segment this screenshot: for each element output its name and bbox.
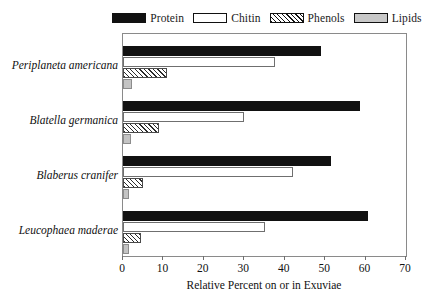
legend-label-phenols: Phenols [308, 12, 345, 24]
category-label: Blatella germanica [0, 114, 118, 126]
legend-swatch-phenols [270, 13, 304, 23]
x-tick [405, 256, 406, 260]
bar-lipids [123, 79, 132, 89]
bar-phenols [123, 178, 143, 188]
x-tick [122, 256, 123, 260]
x-tick-label: 50 [318, 262, 330, 274]
bar-protein [123, 156, 331, 166]
x-tick [203, 256, 204, 260]
x-tick-label: 40 [278, 262, 290, 274]
x-tick [284, 256, 285, 260]
bar-chitin [123, 167, 293, 177]
bar-group [123, 98, 406, 142]
x-tick-label: 0 [119, 262, 125, 274]
bar-lipids [123, 189, 129, 199]
category-label: Leucophaea maderae [0, 224, 118, 236]
bar-phenols [123, 68, 167, 78]
chart-figure: Protein Chitin Phenols Lipids Periplanet… [0, 0, 428, 305]
bar-protein [123, 211, 368, 221]
chart-legend: Protein Chitin Phenols Lipids [122, 10, 412, 26]
x-tick-label: 10 [157, 262, 169, 274]
bar-protein [123, 101, 360, 111]
plot-area [122, 33, 407, 257]
legend-label-chitin: Chitin [231, 12, 260, 24]
category-label: Blaberus cranifer [0, 169, 118, 181]
bars-container [123, 34, 406, 256]
bar-chitin [123, 57, 275, 67]
legend-label-protein: Protein [150, 12, 184, 24]
legend-swatch-lipids [354, 13, 388, 23]
bar-lipids [123, 134, 131, 144]
x-axis: 010203040506070 [122, 256, 406, 278]
bar-lipids [123, 244, 129, 254]
legend-swatch-protein [112, 13, 146, 23]
bar-phenols [123, 123, 159, 133]
legend-item-phenols: Phenols [270, 12, 345, 24]
bar-group [123, 153, 406, 197]
legend-swatch-chitin [193, 13, 227, 23]
bar-group [123, 43, 406, 87]
x-tick-label: 20 [197, 262, 209, 274]
x-tick [243, 256, 244, 260]
x-axis-title: Relative Percent on or in Exuviae [122, 279, 406, 292]
legend-item-chitin: Chitin [193, 12, 260, 24]
x-tick-label: 70 [399, 262, 411, 274]
bar-protein [123, 46, 321, 56]
legend-item-lipids: Lipids [354, 12, 422, 24]
x-tick-label: 30 [238, 262, 250, 274]
bar-group [123, 208, 406, 252]
x-tick [162, 256, 163, 260]
x-tick-label: 60 [359, 262, 371, 274]
x-tick [324, 256, 325, 260]
bar-phenols [123, 233, 141, 243]
bar-chitin [123, 112, 244, 122]
legend-item-protein: Protein [112, 12, 184, 24]
bar-chitin [123, 222, 265, 232]
legend-label-lipids: Lipids [392, 12, 422, 24]
category-label: Periplaneta americana [0, 59, 118, 71]
x-tick [365, 256, 366, 260]
